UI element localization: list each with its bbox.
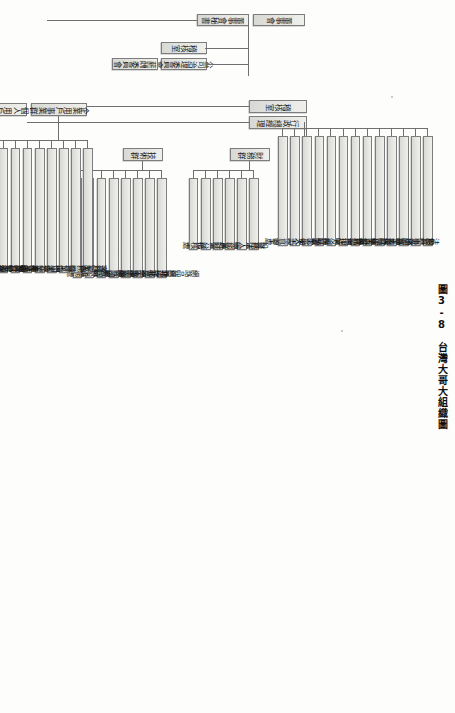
bus-consumer-stub (51, 140, 52, 148)
tech-unit-4: 中區網路經營處 (109, 178, 119, 278)
box-label: 人力資源處 (265, 237, 302, 245)
org-chart-canvas: 董事會董事會秘書公司治理委員會薪酬委員會稽核室稽核室行政總經理財務群技術群企業用… (0, 0, 455, 713)
bus-tech-stub (137, 170, 138, 178)
group-header-finance: 財務群 (230, 148, 270, 161)
consumer-unit-1: 通路業務暨管理處 (71, 148, 81, 273)
bus-consumer-stub (63, 140, 64, 148)
box-label: 稽核室 (171, 44, 197, 52)
admin-unit-4: 企業寬頻技術處 (375, 136, 385, 246)
bus-consumer-stub (39, 140, 40, 148)
consumer-unit-3: 行銷業務處 (47, 148, 57, 273)
bus-admin-stub (391, 128, 392, 136)
bus-admin-stub (427, 128, 428, 136)
admin-unit-10: 行政管理處 (303, 136, 313, 246)
bus-admin-stub (282, 128, 283, 136)
bus-consumer-stub (15, 140, 16, 148)
box-label: 董事會 (266, 16, 292, 24)
box-label: 客戶服務暨電子商務處 (0, 264, 4, 272)
scan-speck (391, 96, 393, 98)
bus-admin-stub (355, 128, 356, 136)
spine-groups-2 (27, 122, 249, 123)
group-header-tech: 技術群 (123, 148, 163, 161)
bus-consumer-stub (3, 140, 4, 148)
bus-admin-stub (403, 128, 404, 136)
tech-unit-1: 網路經營管理處 (145, 178, 155, 278)
bus-admin-stub (306, 128, 307, 136)
box-label: 稽核室 (265, 103, 291, 111)
tech-unit-2: 北一區網路經營處 (133, 178, 143, 278)
spine-board (47, 20, 197, 21)
consumer-unit-0: 客戶服務處 (84, 148, 94, 273)
tech-unit-5: 南區網路經營處 (97, 178, 107, 278)
spine-groups (87, 106, 249, 107)
link-admin-header (304, 122, 305, 136)
box-label: 技術群 (130, 151, 156, 159)
bus-consumer-stub (75, 140, 76, 148)
consumer-unit-2: 營業處 (59, 148, 69, 273)
box-label: 企業用戶事業群 (29, 106, 89, 114)
bus-finance-stub (193, 170, 194, 178)
spine-committee (207, 64, 249, 65)
bus-tech-stub (113, 170, 114, 178)
bus-finance-stub (253, 170, 254, 178)
bus-tech-stub (101, 170, 102, 178)
box-label: 個人用戶事業群 (0, 106, 29, 114)
finance-unit-0: 財務處 (250, 178, 260, 250)
consumer-unit-4: 加值業務處 (35, 148, 45, 273)
rotated-chart-wrapper: 董事會董事會秘書公司治理委員會薪酬委員會稽核室稽核室行政總經理財務群技術群企業用… (0, 0, 455, 713)
box-label: 行政總經理 (257, 119, 300, 127)
spine-audit (205, 48, 249, 49)
link-tech-header (142, 161, 143, 171)
node-board-secretary: 董事會秘書 (197, 14, 249, 26)
bus-admin-stub (343, 128, 344, 136)
finance-unit-2: 帳務處 (225, 178, 235, 250)
node-board: 董事會 (253, 14, 305, 26)
box-label: 公司治理委員會 (154, 60, 214, 68)
bus-tech-stub (161, 170, 162, 178)
finance-unit-5: 稽核處 (189, 178, 199, 250)
admin-unit-6: 企業服務採購處 (351, 136, 361, 246)
group-header-audit-room: 稽核室 (249, 100, 307, 113)
bus-consumer-stub (87, 140, 88, 148)
consumer-unit-7: 法律暨服務事業處 (0, 148, 8, 273)
box-label: 薪酬委員會 (114, 60, 157, 68)
admin-unit-12: 人力資源處 (278, 136, 288, 246)
admin-unit-2: 用戶暨通路技術處 (399, 136, 409, 246)
admin-unit-0: 法務室 (424, 136, 434, 246)
link-finance-header (249, 161, 250, 171)
bus-tech-stub (125, 170, 126, 178)
bus-admin-stub (415, 128, 416, 136)
bus-finance-stub (205, 170, 206, 178)
bus-finance-stub (217, 170, 218, 178)
bus-admin-stub (294, 128, 295, 136)
bus-admin-stub (367, 128, 368, 136)
bus-consumer-stub (27, 140, 28, 148)
tech-unit-3: 北二區網路經營處 (121, 178, 131, 278)
link-consumer-header (58, 116, 59, 141)
bus-finance-stub (229, 170, 230, 178)
bus-top-level (248, 20, 249, 76)
finance-unit-3: 會計處 (213, 178, 223, 250)
box-label: 財務群 (237, 151, 263, 159)
figure-caption: 圖3-8 台灣大哥大組織圖 (435, 284, 447, 430)
bus-finance-stub (241, 170, 242, 178)
bus-admin-stub (318, 128, 319, 136)
consumer-unit-6: 產品及行銷處 (11, 148, 21, 273)
admin-unit-8: 資訊治理及應用服務處 (327, 136, 337, 246)
bus-admin-stub (330, 128, 331, 136)
admin-unit-3: 網路技術處 (387, 136, 397, 246)
finance-unit-4: 經營分析處 (201, 178, 211, 250)
admin-unit-9: 採購處 (315, 136, 325, 246)
box-label: 稽核處 (183, 241, 205, 249)
figure-title: 台灣大哥大組織圖 (436, 342, 447, 430)
consumer-unit-5: 商業業務處 (23, 148, 33, 273)
group-header-enterprise: 企業用戶事業群 (31, 103, 87, 116)
admin-unit-5: 系統建置維運處 (363, 136, 373, 246)
box-label: 董事會秘書 (202, 16, 245, 24)
admin-unit-11: 勞工安全衛生室 (290, 136, 300, 246)
admin-unit-1: 公共事務處 (411, 136, 421, 246)
finance-unit-1: 投資法人關係處 (237, 178, 247, 250)
admin-unit-7: 資源採購處 (339, 136, 349, 246)
scan-speck (341, 330, 343, 332)
group-header-consumer: 個人用戶事業群 (0, 103, 27, 116)
